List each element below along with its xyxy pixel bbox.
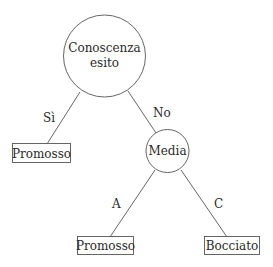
decision-tree-diagram: Sì No A C Conoscenza esito Promosso Medi… xyxy=(0,0,273,267)
leaf-promosso-a-label: Promosso xyxy=(76,239,135,253)
root-node-label-line2: esito xyxy=(90,56,119,70)
leaf-promosso-a: Promosso xyxy=(76,237,135,255)
leaf-bocciato-c: Bocciato xyxy=(205,237,260,255)
edge-label-a: A xyxy=(111,197,121,211)
leaf-promosso-left: Promosso xyxy=(12,144,71,163)
leaf-promosso-left-label: Promosso xyxy=(12,147,71,161)
root-node-label-line1: Conoscenza xyxy=(68,41,141,55)
leaf-bocciato-c-label: Bocciato xyxy=(206,239,259,253)
edge-label-si: Sì xyxy=(43,111,55,125)
diagram-svg: Sì No A C Conoscenza esito Promosso Medi… xyxy=(0,0,273,267)
media-node: Media xyxy=(146,130,189,173)
media-node-label: Media xyxy=(148,144,186,158)
edge-label-c: C xyxy=(214,197,223,211)
root-node: Conoscenza esito xyxy=(64,15,146,97)
edge-root-to-media xyxy=(128,91,156,133)
edge-label-no: No xyxy=(153,106,171,120)
